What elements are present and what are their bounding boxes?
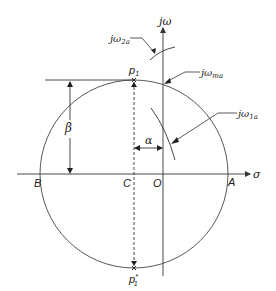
jwma-label: jωma <box>199 67 223 80</box>
p1-pole-marker <box>131 78 137 87</box>
jw1a-leader <box>175 113 237 141</box>
point-c-label: C <box>123 177 131 189</box>
jwma-leader <box>166 72 200 82</box>
point-b-label: B <box>34 177 41 189</box>
jomega-axis-label: jω <box>156 15 171 28</box>
jw2a-leader <box>130 38 154 52</box>
p1-label: p1 <box>128 64 139 77</box>
p1-conjugate-pole-marker <box>131 261 137 270</box>
sigma-axis-label: σ <box>253 168 261 181</box>
point-o-label: O <box>153 177 162 189</box>
alpha-label: α <box>145 134 153 147</box>
beta-label: β <box>64 121 72 135</box>
jw2a-label: jω2a <box>108 33 130 46</box>
point-a-label: A <box>227 176 235 188</box>
pole-zero-diagram: jω σ jω2a jωma jω1a p1 p*1 β α B C O A <box>0 0 276 291</box>
p1-conjugate-label: p*1 <box>128 273 138 287</box>
jw1a-label: jω1a <box>236 108 258 121</box>
